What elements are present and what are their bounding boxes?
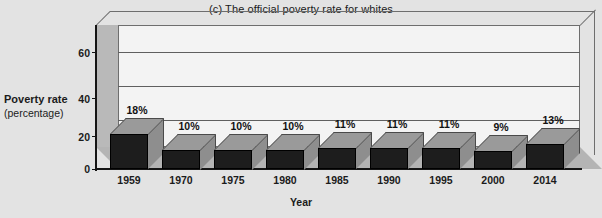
y-tick-mark-20 <box>92 136 97 137</box>
bar-value-label-2014: 13% <box>530 114 576 126</box>
x-tick-label-1985: 1985 <box>310 174 364 186</box>
bar-front-face <box>474 151 512 169</box>
gridline-60 <box>118 52 580 53</box>
y-tick-label-60: 60 <box>64 47 90 59</box>
y-tick-mark-60 <box>92 52 97 53</box>
y-tick-mark-40 <box>92 98 97 99</box>
x-tick-label-1995: 1995 <box>414 174 468 186</box>
bar-front-face <box>526 144 564 169</box>
bar-value-label-1985: 11% <box>322 118 368 130</box>
x-tick-label-2014: 2014 <box>518 174 572 186</box>
bar-front-face <box>162 150 200 170</box>
bar-value-label-1970: 10% <box>166 120 212 132</box>
x-tick-label-1980: 1980 <box>258 174 312 186</box>
bar-front-face <box>110 134 148 169</box>
x-tick-label-1990: 1990 <box>362 174 416 186</box>
frame-outer-right <box>594 11 595 155</box>
y-tick-label-40: 40 <box>64 93 90 105</box>
x-tick-label-1975: 1975 <box>206 174 260 186</box>
plot-floor-right-bevel <box>580 147 602 169</box>
bar-front-face <box>422 148 460 169</box>
bar-value-label-1990: 11% <box>374 118 420 130</box>
bar-1980[interactable] <box>266 134 320 170</box>
bar-1970[interactable] <box>162 134 216 170</box>
plot-area: 60 40 20 0 18%195910%197010%197510%19801… <box>0 0 602 218</box>
bar-value-label-1980: 10% <box>270 120 316 132</box>
bar-front-face <box>214 150 252 170</box>
bar-front-face <box>318 148 356 169</box>
bar-value-label-2000: 9% <box>478 121 524 133</box>
y-tick-mark-0 <box>92 169 97 170</box>
bar-2000[interactable] <box>474 135 528 169</box>
x-axis-title: Year <box>0 196 602 208</box>
bar-value-label-1959: 18% <box>114 104 160 116</box>
frame-outer-top <box>110 11 595 12</box>
gridline-40 <box>118 86 580 87</box>
x-tick-label-2000: 2000 <box>466 174 520 186</box>
y-tick-label-20: 20 <box>64 131 90 143</box>
bar-front-face <box>266 150 304 170</box>
bar-1959[interactable] <box>110 118 164 169</box>
bar-front-face <box>370 148 408 169</box>
frame-top-outer <box>118 25 580 26</box>
chart-figure: (c) The official poverty rate for whites… <box>0 0 602 218</box>
bar-1995[interactable] <box>422 132 476 169</box>
bar-1985[interactable] <box>318 132 372 169</box>
bar-value-label-1995: 11% <box>426 118 472 130</box>
bar-1990[interactable] <box>370 132 424 169</box>
x-tick-label-1970: 1970 <box>154 174 208 186</box>
frame-outer-top-left-diag <box>96 11 111 26</box>
y-tick-label-0: 0 <box>64 163 90 175</box>
bar-value-label-1975: 10% <box>218 120 264 132</box>
x-tick-label-1959: 1959 <box>102 174 156 186</box>
bar-2014[interactable] <box>526 128 580 169</box>
bar-1975[interactable] <box>214 134 268 170</box>
